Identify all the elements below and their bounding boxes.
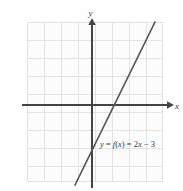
x-axis-arrowhead <box>167 101 174 108</box>
equation-label: y = f(x) = 2x − 3 <box>99 139 155 149</box>
eq-equals-2: = <box>125 139 134 149</box>
x-axis-label: x <box>174 101 179 111</box>
y-axis-arrowhead <box>88 18 95 25</box>
eq-minus-sign: − <box>142 139 151 149</box>
eq-constant: 3 <box>151 139 155 149</box>
graph-figure: x y y = f(x) = 2x − 3 <box>0 0 183 191</box>
eq-equals-1: = <box>104 139 113 149</box>
y-axis-label: y <box>88 8 93 18</box>
